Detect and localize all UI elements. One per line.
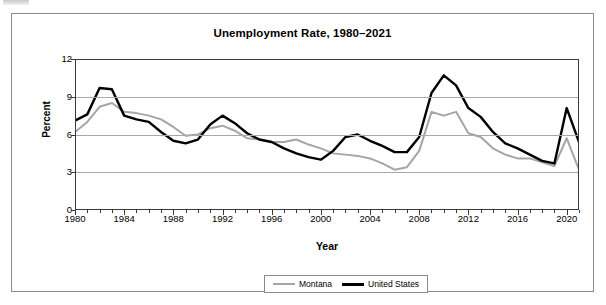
x-tick-mark-2001 bbox=[333, 210, 334, 213]
y-tick-label-6: 6 bbox=[48, 130, 72, 140]
x-tick-mark-2004 bbox=[370, 210, 371, 215]
x-tick-mark-2013 bbox=[481, 210, 482, 213]
x-tick-mark-2007 bbox=[407, 210, 408, 213]
x-tick-mark-1989 bbox=[186, 210, 187, 213]
y-tick-mark-9 bbox=[71, 97, 75, 98]
x-tick-label-2020: 2020 bbox=[556, 214, 577, 224]
x-tick-mark-1982 bbox=[100, 210, 101, 213]
x-tick-label-2016: 2016 bbox=[507, 214, 528, 224]
gridline-6 bbox=[75, 135, 579, 136]
x-tick-mark-1993 bbox=[235, 210, 236, 213]
x-tick-mark-1984 bbox=[124, 210, 125, 215]
legend-entry-united-states: United States bbox=[342, 279, 419, 289]
montana-line-swatch bbox=[273, 283, 295, 285]
x-tick-mark-2015 bbox=[505, 210, 506, 213]
legend-entry-montana: Montana bbox=[273, 279, 332, 289]
scan-artifact bbox=[3, 0, 29, 5]
x-tick-mark-2011 bbox=[456, 210, 457, 213]
x-tick-mark-2019 bbox=[554, 210, 555, 213]
x-tick-mark-1987 bbox=[161, 210, 162, 213]
x-tick-mark-2003 bbox=[358, 210, 359, 213]
united-states-line-swatch bbox=[342, 283, 364, 286]
x-tick-mark-2012 bbox=[468, 210, 469, 215]
x-tick-label-2004: 2004 bbox=[359, 214, 380, 224]
y-tick-mark-3 bbox=[71, 172, 75, 173]
x-tick-mark-1980 bbox=[75, 210, 76, 215]
x-tick-mark-1996 bbox=[272, 210, 273, 215]
gridline-3 bbox=[75, 172, 579, 173]
x-tick-mark-1986 bbox=[149, 210, 150, 213]
x-tick-mark-1988 bbox=[173, 210, 174, 215]
chart-title: Unemployment Rate, 1980–2021 bbox=[12, 27, 593, 39]
x-tick-mark-2005 bbox=[382, 210, 383, 213]
x-tick-mark-2016 bbox=[518, 210, 519, 215]
x-tick-mark-2018 bbox=[542, 210, 543, 213]
x-tick-mark-1999 bbox=[309, 210, 310, 213]
y-tick-mark-6 bbox=[71, 135, 75, 136]
x-tick-label-2008: 2008 bbox=[409, 214, 430, 224]
x-tick-mark-2017 bbox=[530, 210, 531, 213]
x-tick-mark-1994 bbox=[247, 210, 248, 213]
chart-figure-frame: Unemployment Rate, 1980–2021 Percent 036… bbox=[11, 13, 594, 292]
x-tick-mark-1981 bbox=[87, 210, 88, 213]
x-tick-mark-2021 bbox=[579, 210, 580, 213]
x-tick-mark-1991 bbox=[210, 210, 211, 213]
y-tick-label-9: 9 bbox=[48, 92, 72, 102]
x-tick-mark-1997 bbox=[284, 210, 285, 213]
x-tick-label-1988: 1988 bbox=[163, 214, 184, 224]
legend-label-montana: Montana bbox=[299, 279, 332, 289]
x-tick-label-2000: 2000 bbox=[310, 214, 331, 224]
x-axis-title: Year bbox=[75, 240, 579, 252]
x-tick-label-1992: 1992 bbox=[212, 214, 233, 224]
plot-area bbox=[75, 59, 579, 210]
x-tick-label-1980: 1980 bbox=[64, 214, 85, 224]
legend-label-united-states: United States bbox=[368, 279, 419, 289]
gridline-9 bbox=[75, 97, 579, 98]
y-tick-label-3: 3 bbox=[48, 168, 72, 178]
y-tick-mark-12 bbox=[71, 59, 75, 60]
x-tick-label-1984: 1984 bbox=[114, 214, 135, 224]
x-axis-tick-labels: 1980198419881992199620002004200820122016… bbox=[75, 214, 579, 228]
x-tick-mark-1985 bbox=[136, 210, 137, 213]
x-tick-mark-2020 bbox=[567, 210, 568, 215]
y-axis-tick-labels: 036912 bbox=[48, 59, 72, 210]
y-tick-label-12: 12 bbox=[48, 54, 72, 64]
x-tick-mark-1995 bbox=[259, 210, 260, 213]
x-tick-mark-1990 bbox=[198, 210, 199, 213]
x-tick-label-1996: 1996 bbox=[261, 214, 282, 224]
x-tick-label-2012: 2012 bbox=[458, 214, 479, 224]
x-tick-mark-1983 bbox=[112, 210, 113, 213]
x-tick-mark-2000 bbox=[321, 210, 322, 215]
chart-legend: Montana United States bbox=[264, 275, 428, 293]
x-tick-mark-2010 bbox=[444, 210, 445, 213]
x-tick-mark-2006 bbox=[395, 210, 396, 213]
x-tick-mark-1992 bbox=[223, 210, 224, 215]
x-tick-mark-1998 bbox=[296, 210, 297, 213]
x-tick-mark-2002 bbox=[345, 210, 346, 213]
x-tick-mark-2014 bbox=[493, 210, 494, 213]
x-tick-mark-2009 bbox=[431, 210, 432, 213]
series-line-montana bbox=[75, 103, 579, 170]
x-tick-mark-2008 bbox=[419, 210, 420, 215]
